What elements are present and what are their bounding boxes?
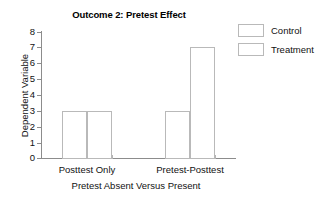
y-tick-label-4: 4: [19, 90, 35, 100]
bar-pretest-posttest-control: [165, 111, 190, 159]
y-tick-label-8: 8: [19, 27, 35, 37]
y-tickmark-7: [37, 47, 41, 48]
chart-legend: Control Treatment: [238, 22, 314, 60]
y-tickmark-2: [37, 127, 41, 128]
y-tickmark-4: [37, 95, 41, 96]
chart-title: Outcome 2: Pretest Effect: [44, 9, 214, 20]
y-tick-label-0: 0: [19, 153, 35, 163]
y-tick-label-6: 6: [19, 58, 35, 68]
bar-pretest-posttest-treatment: [190, 47, 215, 159]
y-tick-label-5: 5: [19, 74, 35, 84]
legend-item-control: Control: [238, 22, 314, 39]
y-tickmark-1: [37, 143, 41, 144]
y-tick-label-7: 7: [19, 42, 35, 52]
x-axis-label: Pretest Absent Versus Present: [36, 180, 236, 191]
y-tickmark-0: [37, 158, 41, 159]
bar-posttest-only-treatment: [87, 111, 112, 159]
x-tickmark-5: [215, 155, 216, 159]
bar-posttest-only-control: [62, 111, 87, 159]
chart-figure: Outcome 2: Pretest Effect Dependent Vari…: [0, 0, 322, 198]
y-tick-label-1: 1: [19, 138, 35, 148]
legend-swatch-control-icon: [238, 24, 264, 37]
y-axis-line: [41, 31, 42, 159]
y-tickmark-8: [37, 32, 41, 33]
legend-label-control: Control: [271, 25, 302, 36]
legend-item-treatment: Treatment: [238, 41, 314, 58]
x-tick-label-posttest-only: Posttest Only: [37, 164, 137, 175]
x-tickmark-2: [112, 155, 113, 159]
y-tickmark-5: [37, 79, 41, 80]
y-tick-label-3: 3: [19, 106, 35, 116]
legend-label-treatment: Treatment: [271, 44, 314, 55]
y-tickmark-3: [37, 111, 41, 112]
legend-swatch-treatment-icon: [238, 43, 264, 56]
x-tick-label-pretest-posttest: Pretest-Posttest: [140, 164, 240, 175]
y-tick-label-2: 2: [19, 122, 35, 132]
y-tickmark-6: [37, 63, 41, 64]
